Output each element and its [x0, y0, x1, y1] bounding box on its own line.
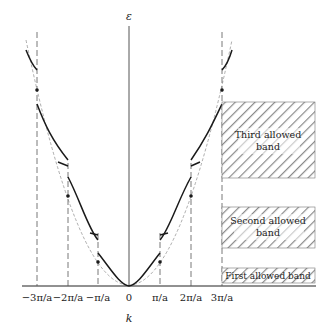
first-allowed-band: First allowed band	[222, 268, 315, 283]
first-band-label: First allowed band	[225, 271, 311, 281]
svg-text:π/a: π/a	[152, 292, 168, 303]
second-band-label: Second allowed	[230, 215, 306, 226]
third-band-label: Third allowed	[235, 129, 301, 140]
svg-text:3π/a: 3π/a	[211, 292, 233, 303]
third-allowed-band: Third allowed band	[222, 102, 315, 178]
third-band-label-2: band	[256, 141, 280, 152]
svg-text:−2π/a: −2π/a	[53, 292, 84, 303]
second-band-label-2: band	[256, 227, 280, 238]
band-structure-diagram: Third allowed band Second allowed band F…	[0, 0, 333, 331]
energy-axis-label: ε	[126, 10, 132, 23]
tick-labels: −3π/a −2π/a −π/a 0 π/a 2π/a 3π/a	[22, 292, 233, 303]
svg-text:−π/a: −π/a	[86, 292, 110, 303]
svg-text:0: 0	[126, 292, 132, 303]
svg-text:2π/a: 2π/a	[180, 292, 202, 303]
second-allowed-band: Second allowed band	[222, 207, 315, 248]
k-axis-label: k	[126, 312, 133, 325]
svg-text:−3π/a: −3π/a	[22, 292, 53, 303]
